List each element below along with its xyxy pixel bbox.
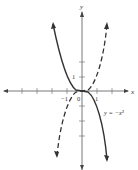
curve-dashed-top-arrow-icon [104,22,109,29]
y-axis-down-arrow-icon [80,165,84,170]
curve-solid-bottom-arrow-icon [104,155,109,162]
y-axis-label: y [79,3,84,11]
curve-dashed-bottom-arrow-icon [54,151,59,158]
curve-neg-x-cubed [53,24,107,160]
tick-label-neg-one: −1 [61,95,68,102]
x-axis-left-arrow-icon [3,89,8,93]
x-axis: x [3,88,135,96]
x-axis-right-arrow-icon [124,89,129,93]
curve-label-neg-x-cubed: y = −x³ [103,109,125,116]
x-axis-label: x [130,88,135,96]
curve-solid-top-arrow-icon [51,22,56,29]
tick-label-zero: 0 [77,95,80,102]
tick-label-y-one: 1 [72,73,75,80]
cubic-graph-figure: x y −1 0 1 1 y = −x [0,0,138,170]
y-axis: y [79,3,85,170]
tick-label-one: 1 [95,95,98,102]
y-axis-up-arrow-icon [80,11,84,17]
